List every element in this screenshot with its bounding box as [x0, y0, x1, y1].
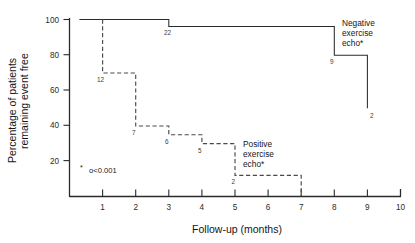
x-tick-label-2: 2 [133, 203, 138, 212]
at-risk-label-negative-2: 2 [370, 112, 374, 119]
at-risk-label-positive-5: 5 [198, 147, 202, 154]
at-risk-label-positive-12: 12 [97, 76, 105, 83]
at-risk-label-positive-2: 2 [232, 178, 236, 185]
series-negative-exercise-echo-curve [79, 20, 367, 109]
x-tick-label-3: 3 [167, 203, 172, 212]
x-tick-label-9: 9 [365, 203, 370, 212]
p-value-text: o<0.001 [89, 166, 117, 175]
x-tick-label-10: 10 [396, 203, 406, 212]
p-value-annotation: * o<0.001 [80, 164, 117, 175]
y-tick-label-60: 60 [50, 86, 60, 95]
at-risk-label-negative-22: 22 [164, 29, 172, 36]
y-tick-label-20: 20 [50, 157, 60, 166]
p-value-star: * [80, 164, 83, 171]
y-tick-label-80: 80 [50, 51, 60, 60]
x-tick-label-6: 6 [266, 203, 271, 212]
series-positive-exercise-echo-curve [103, 20, 302, 197]
y-tick-label-40: 40 [50, 121, 60, 130]
positive-label-line2: exercise [243, 149, 274, 159]
x-tick-label-5: 5 [233, 203, 238, 212]
x-tick-label-7: 7 [299, 203, 304, 212]
at-risk-label-positive-7: 7 [132, 129, 136, 136]
negative-label-line1: Negative [342, 18, 375, 28]
chart-svg: Percentage of patients remaining event f… [0, 0, 415, 243]
x-axis-ticks: 1 2 3 4 5 6 7 8 9 10 [100, 190, 405, 213]
positive-label-line3: echo* [243, 159, 265, 169]
negative-label-line3: echo* [342, 38, 364, 48]
y-axis-title: Percentage of patients remaining event f… [6, 53, 30, 163]
at-risk-label-negative-9: 9 [330, 58, 334, 65]
x-tick-label-4: 4 [200, 203, 205, 212]
series-positive-exercise-echo-label: Positive exercise echo* [243, 139, 274, 169]
positive-label-line1: Positive [243, 139, 272, 149]
x-axis-title: Follow-up (months) [192, 223, 282, 235]
y-axis-ticks: 100 80 60 40 20 [45, 16, 69, 166]
y-axis-title-line2: remaining event free [18, 53, 30, 149]
survival-curve-figure: Percentage of patients remaining event f… [0, 0, 415, 243]
at-risk-label-positive-6: 6 [165, 138, 169, 145]
series-negative-exercise-echo-label: Negative exercise echo* [342, 18, 375, 48]
y-axis-title-line1: Percentage of patients [6, 58, 18, 163]
y-tick-label-100: 100 [45, 16, 59, 25]
series-positive-at-risk-labels: 12 7 6 5 2 [97, 76, 236, 185]
x-tick-label-8: 8 [332, 203, 337, 212]
x-tick-label-1: 1 [100, 203, 105, 212]
negative-label-line2: exercise [342, 28, 373, 38]
